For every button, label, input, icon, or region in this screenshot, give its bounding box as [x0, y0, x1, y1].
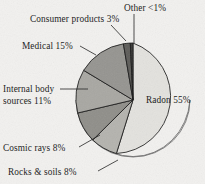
- pie-chart-canvas: Other <1% Consumer products 3% Medical 1…: [0, 0, 205, 184]
- label-internal-body-sources-line2: sources 11%: [3, 96, 51, 106]
- label-consumer-products: Consumer products 3%: [30, 14, 119, 24]
- label-cosmic-rays: Cosmic rays 8%: [3, 143, 65, 153]
- label-internal-body-sources-line1: Internal body: [3, 84, 54, 94]
- label-medical: Medical 15%: [22, 41, 73, 51]
- label-radon: Radon 55%: [146, 95, 191, 105]
- label-rocks-and-soils: Rocks & soils 8%: [8, 167, 77, 177]
- label-other: Other <1%: [124, 3, 166, 13]
- pie-chart-figure: Other <1% Consumer products 3% Medical 1…: [0, 0, 205, 184]
